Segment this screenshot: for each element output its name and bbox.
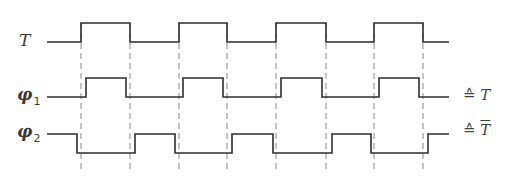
corresponds-symbol: ≙ [463,86,476,104]
signal-label-phi1: φ1 [17,84,39,104]
waveform-T [47,23,449,42]
annotation-phi2-equals-t-bar: ≙ T [463,121,490,139]
annotation-var-t-bar: T [480,121,490,139]
annotation-var-t: T [480,86,490,104]
label-phi2-subscript: 2 [33,132,40,145]
signal-label-t: T [19,30,30,50]
signal-waveforms [47,23,449,153]
timing-diagram [0,0,507,181]
waveform-phi1 [47,78,449,97]
corresponds-symbol: ≙ [463,121,476,139]
label-phi1-subscript: 1 [33,95,40,108]
label-phi2-symbol: φ [17,121,32,141]
label-phi1-symbol: φ [17,84,32,104]
label-t-text: T [19,30,30,50]
annotation-phi1-equals-t: ≙ T [463,86,490,104]
signal-label-phi2: φ2 [17,121,39,141]
waveform-phi2 [47,134,449,153]
